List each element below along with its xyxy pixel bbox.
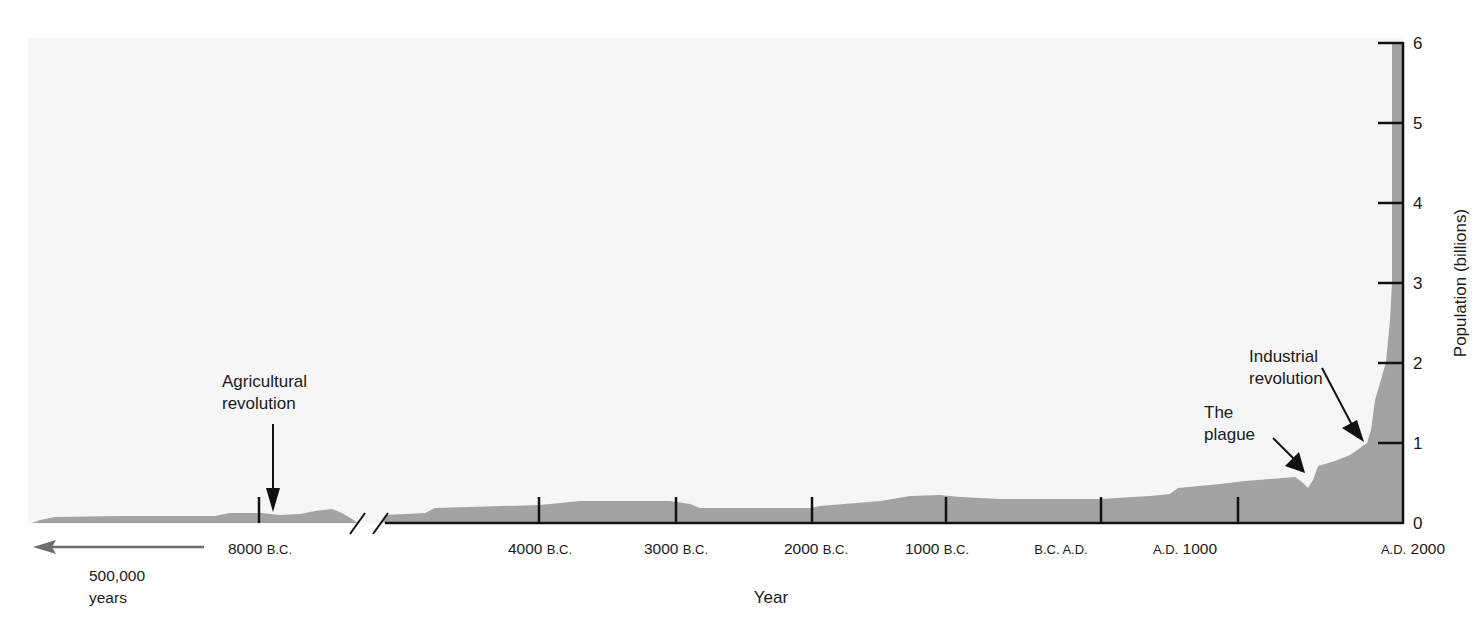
y-tick-label: 6: [1413, 34, 1422, 53]
x-tick-label: 3000 B.C.: [644, 540, 708, 557]
y-tick-label: 1: [1413, 434, 1422, 453]
x-tick-label: 8000 B.C.: [228, 540, 292, 557]
y-tick-label: 5: [1413, 114, 1422, 133]
x-tick-label: A.D. 2000: [1381, 540, 1445, 557]
plot-background: [28, 38, 1403, 524]
time-scale-label: 500,000 years: [89, 567, 149, 606]
x-tick-label: 4000 B.C.: [508, 540, 572, 557]
y-tick-labels: 0 1 2 3 4 5 6: [1413, 34, 1422, 533]
time-scale-arrow: [33, 540, 204, 554]
x-tick-label: 1000 B.C.: [905, 540, 969, 557]
x-tick-label: A.D. 1000: [1153, 540, 1217, 557]
x-axis-title: Year: [754, 588, 789, 607]
y-axis-title: Population (billions): [1451, 209, 1470, 357]
x-tick-label: B.C. A.D.: [1034, 542, 1087, 557]
y-tick-label: 3: [1413, 274, 1422, 293]
x-tick-label: 2000 B.C.: [784, 540, 848, 557]
y-tick-label: 2: [1413, 354, 1422, 373]
y-tick-label: 4: [1413, 194, 1422, 213]
x-tick-labels: 8000 B.C. 4000 B.C. 3000 B.C. 2000 B.C. …: [228, 540, 1445, 557]
population-chart: 0 1 2 3 4 5 6 Population (billions) 8000…: [0, 0, 1481, 639]
y-tick-label: 0: [1413, 514, 1422, 533]
